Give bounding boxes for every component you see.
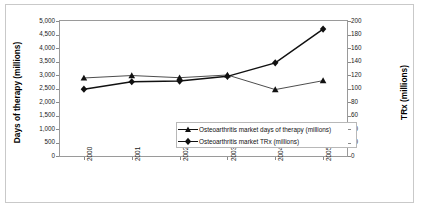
legend-label: Osteoarthritis market TRx (millions) — [199, 138, 299, 145]
x-axis-tick-label: 2000 — [87, 147, 93, 161]
x-axis-tick — [132, 157, 133, 160]
y-axis-left-tick-label: 5,000 — [5, 18, 55, 24]
y-axis-left-tick — [56, 48, 59, 49]
y-axis-left-tick — [56, 116, 59, 117]
y-axis-left-tick — [56, 102, 59, 103]
y-axis-left-tick — [56, 156, 59, 157]
legend-marker-diamond-icon — [177, 136, 199, 147]
y-axis-left-tick — [56, 62, 59, 63]
data-point-marker — [129, 78, 135, 85]
y-axis-right-tick — [348, 143, 351, 144]
y-axis-right-tick-label: 100 — [351, 85, 362, 91]
y-axis-left-title: Days of therapy (millions) — [13, 28, 22, 158]
y-axis-left-tick — [56, 21, 59, 22]
data-point-marker — [272, 59, 278, 66]
y-axis-right-tick — [348, 48, 351, 49]
y-axis-right-title: TRx (millions) — [400, 28, 409, 158]
y-axis-right-tick-label: 200 — [351, 18, 362, 24]
y-axis-right-tick — [348, 62, 351, 63]
y-axis-right-tick — [348, 156, 351, 157]
series-line — [84, 75, 323, 90]
y-axis-right-tick — [348, 75, 351, 76]
legend-marker-triangle-icon — [177, 124, 199, 135]
y-axis-right-tick-label: 140 — [351, 58, 362, 64]
y-axis-right-tick — [348, 89, 351, 90]
data-point-marker — [320, 26, 326, 33]
x-axis-tick — [180, 157, 181, 160]
legend-item-days-of-therapy: Osteoarthritis market days of therapy (m… — [177, 124, 356, 135]
x-axis-tick-label: 2005 — [326, 147, 332, 161]
legend-item-trx: Osteoarthritis market TRx (millions) — [177, 136, 356, 147]
y-axis-right-tick-label: 180 — [351, 31, 362, 37]
chart-figure: 05001,0001,5002,0002,5003,0003,5004,0004… — [0, 0, 421, 210]
y-axis-right-tick-label: 0 — [351, 153, 355, 159]
y-axis-left-labels: 05001,0001,5002,0002,5003,0003,5004,0004… — [0, 0, 55, 210]
y-axis-right-tick — [348, 129, 351, 130]
y-axis-left-tick — [56, 75, 59, 76]
x-axis-tick-label: 2004 — [278, 147, 284, 161]
y-axis-left-tick — [56, 35, 59, 36]
x-axis-tick — [84, 157, 85, 160]
y-axis-right-tick-label: 80 — [351, 99, 358, 105]
chart-legend: Osteoarthritis market days of therapy (m… — [176, 122, 357, 148]
x-axis-tick — [227, 157, 228, 160]
x-axis-tick-label: 2001 — [135, 147, 141, 161]
x-axis-tick-label: 2002 — [183, 147, 189, 161]
y-axis-left-tick — [56, 129, 59, 130]
data-point-marker — [81, 86, 87, 93]
y-axis-left-tick — [56, 89, 59, 90]
data-point-marker — [320, 77, 327, 83]
y-axis-right-tick — [348, 102, 351, 103]
data-point-marker — [128, 72, 135, 78]
x-axis-tick — [275, 157, 276, 160]
data-point-marker — [224, 73, 230, 80]
series-line — [84, 29, 323, 89]
x-axis-tick — [323, 157, 324, 160]
y-axis-right-tick-label: 120 — [351, 72, 362, 78]
y-axis-right-tick — [348, 35, 351, 36]
y-axis-right-tick-label: 60 — [351, 112, 358, 118]
legend-label: Osteoarthritis market days of therapy (m… — [199, 126, 331, 133]
y-axis-right-tick — [348, 116, 351, 117]
y-axis-right-tick — [348, 21, 351, 22]
x-axis-tick-label: 2003 — [231, 147, 237, 161]
y-axis-left-tick — [56, 143, 59, 144]
y-axis-right-labels: 020406080100120140160180200 — [351, 0, 377, 210]
y-axis-right-tick-label: 160 — [351, 45, 362, 51]
